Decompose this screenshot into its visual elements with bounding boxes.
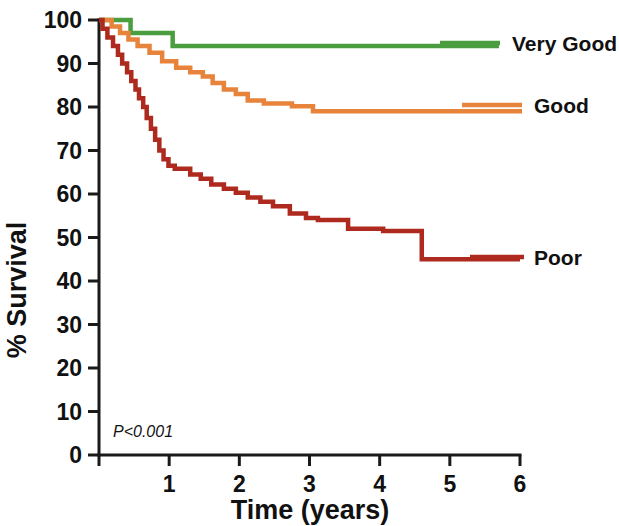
legend: Very GoodGoodPoor [440, 32, 617, 269]
y-tick-label: 50 [56, 225, 82, 251]
legend-label-very-good: Very Good [512, 32, 617, 55]
series-line-very-good [99, 20, 499, 46]
y-tick-label: 90 [56, 51, 82, 77]
x-axis-title: Time (years) [231, 495, 390, 525]
y-tick-label: 20 [56, 355, 82, 381]
y-tick-label: 70 [56, 138, 82, 164]
x-axis-tick-labels: 123456 [163, 471, 527, 497]
legend-label-poor: Poor [534, 246, 582, 269]
y-axis-title: % Survival [2, 222, 32, 359]
x-tick-label: 1 [163, 471, 176, 497]
y-tick-label: 40 [56, 268, 82, 294]
y-tick-label: 30 [56, 312, 82, 338]
y-tick-label: 100 [44, 7, 82, 33]
y-axis-tick-group [88, 20, 99, 455]
x-tick-label: 4 [373, 471, 386, 497]
x-tick-label: 3 [303, 471, 316, 497]
x-axis-tick-group [99, 455, 520, 466]
y-tick-label: 80 [56, 94, 82, 120]
legend-label-good: Good [534, 94, 589, 117]
y-axis-tick-labels: 0102030405060708090100 [44, 7, 82, 468]
x-tick-label: 5 [443, 471, 456, 497]
series-group [99, 20, 522, 259]
y-tick-label: 10 [56, 399, 82, 425]
y-tick-label: 0 [69, 442, 82, 468]
y-tick-label: 60 [56, 181, 82, 207]
chart-canvas: 0102030405060708090100 123456 Very GoodG… [0, 0, 619, 526]
p-value-annotation: P<0.001 [113, 423, 173, 440]
x-tick-label: 2 [233, 471, 246, 497]
survival-chart-figure: 0102030405060708090100 123456 Very GoodG… [0, 0, 619, 526]
x-tick-label: 6 [514, 471, 527, 497]
